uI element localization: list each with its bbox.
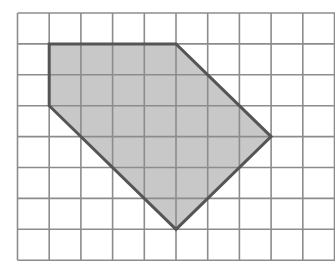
grid-diagram: [0, 0, 335, 263]
